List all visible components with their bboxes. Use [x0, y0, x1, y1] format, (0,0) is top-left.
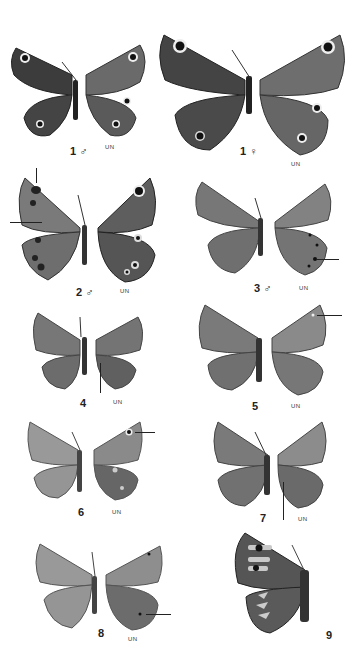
specimen-label: 2 ♂ — [76, 286, 93, 298]
underside-label: UN — [112, 509, 122, 515]
specimen-4: 4 UN — [0, 305, 180, 415]
pointer-line — [100, 363, 101, 393]
specimen-9: 9 — [180, 525, 363, 671]
specimen-label: 1 ♀ — [240, 145, 257, 157]
specimen-5: 5 UN — [180, 300, 363, 420]
underside-label: UN — [299, 285, 309, 291]
butterfly-7-image — [180, 410, 363, 540]
specimen-8: 8 UN — [0, 530, 180, 671]
pointer-line — [10, 222, 42, 223]
underside-label: UN — [105, 144, 115, 150]
specimen-1-male: 1 ♂ UN — [0, 0, 160, 170]
pointer-line — [146, 614, 171, 615]
specimen-label: 6 — [78, 506, 84, 518]
underside-label: UN — [291, 161, 301, 167]
pointer-line — [135, 432, 155, 433]
underside-label: UN — [298, 516, 308, 522]
underside-label: UN — [128, 636, 138, 642]
pointer-line — [317, 315, 342, 316]
specimen-7: 7 UN — [180, 410, 363, 540]
underside-label: UN — [113, 399, 123, 405]
pointer-line — [283, 482, 284, 520]
specimen-6: 6 UN — [0, 410, 180, 530]
specimen-label: 3 ♂ — [254, 282, 271, 294]
butterfly-4-image — [0, 305, 180, 415]
butterfly-8-image — [0, 530, 180, 671]
specimen-label: 1 ♂ — [70, 145, 87, 157]
underside-label: UN — [120, 288, 130, 294]
pointer-line — [36, 168, 37, 183]
butterfly-3-male-image — [180, 170, 363, 310]
specimen-label: 7 — [260, 512, 266, 524]
specimen-label: 4 — [80, 397, 86, 409]
specimen-label: 9 — [326, 629, 332, 641]
specimen-3-male: 3 ♂ UN — [180, 170, 363, 310]
underside-label: UN — [291, 403, 301, 409]
butterfly-5-image — [180, 300, 363, 420]
specimen-2-male: 2 ♂ UN — [0, 170, 180, 310]
butterfly-6-image — [0, 410, 180, 530]
specimen-1-female: 1 ♀ UN — [150, 20, 363, 180]
butterfly-9-image — [180, 525, 363, 671]
specimen-label: 8 — [98, 627, 104, 639]
pointer-line — [317, 259, 339, 260]
